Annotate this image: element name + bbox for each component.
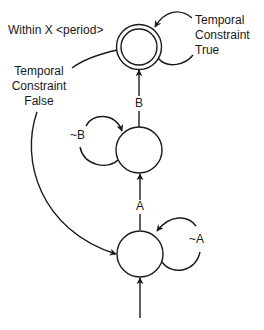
loop-not-a-top [157,218,196,231]
tc-true-line-2: Constraint [195,28,250,43]
tc-false-line-2: Constraint [6,79,72,94]
within-period-label: Within X <period> [8,23,103,38]
after-a-state [116,127,162,173]
loop-not-b-top [86,116,122,131]
tc-false-line-1: Temporal [6,64,72,79]
tc-true-label: Temporal Constraint True [195,13,250,58]
loop-not-b-label: ~B [70,128,85,143]
loop-tc-true-bottom [158,55,193,65]
loop-not-a-bottom [162,252,200,270]
loop-tc-true-top [155,12,192,27]
tc-true-line-3: True [195,43,250,58]
edge-a-label: A [136,199,144,214]
tc-true-line-1: Temporal [195,13,250,28]
final-state [117,25,162,70]
start-state [117,231,163,277]
loop-not-b-bottom [80,147,118,165]
loop-not-a-label: ~A [189,232,204,247]
edge-tc-false-top [72,50,117,68]
tc-false-line-3: False [6,94,72,109]
edge-b-label: B [135,96,143,111]
tc-false-label: Temporal Constraint False [6,64,72,109]
